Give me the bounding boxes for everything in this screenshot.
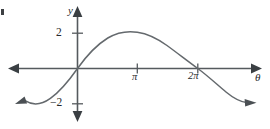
theta-axis-label: θ bbox=[255, 72, 260, 83]
y-axis-top-arrowhead bbox=[73, 6, 83, 17]
y-axis-bottom-arrowhead bbox=[73, 111, 83, 122]
x-tick-label-two-pi: 2π bbox=[188, 71, 199, 82]
y-axis-label: y bbox=[68, 5, 73, 16]
curve-left-arrowhead bbox=[15, 97, 27, 104]
curve-right-arrowhead bbox=[245, 99, 257, 106]
coordinate-plot bbox=[0, 0, 270, 129]
y-tick-label-2: 2 bbox=[56, 27, 62, 39]
y-tick-label-neg-2: −2 bbox=[50, 97, 62, 109]
x-axis-left-arrowhead bbox=[8, 64, 19, 74]
graph-figure: y θ 2 −2 π 2π bbox=[0, 0, 270, 129]
x-tick-label-pi: π bbox=[132, 72, 137, 83]
